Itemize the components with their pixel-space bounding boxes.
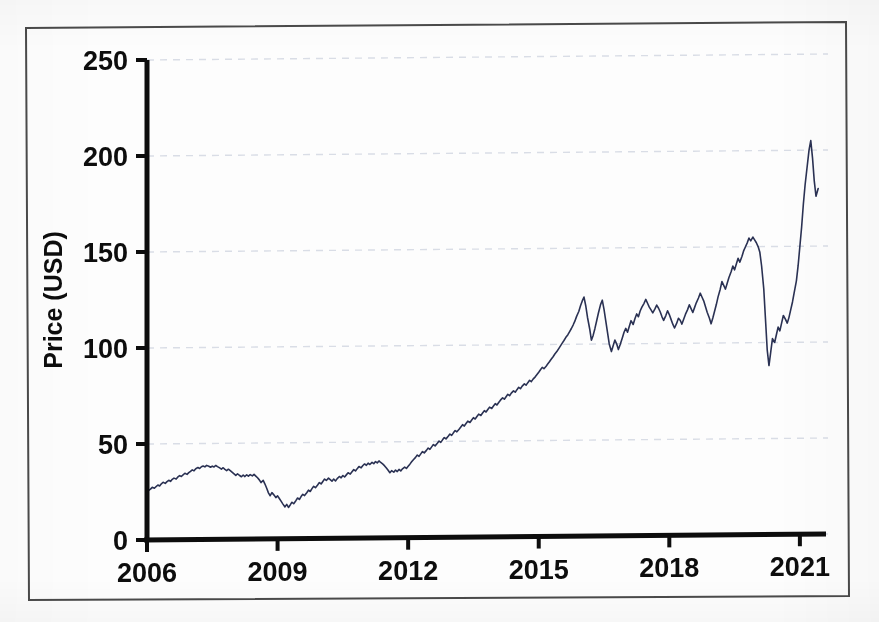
y-tick-label-50: 50 [98,430,128,460]
y-tick-label-100: 100 [83,334,128,364]
price-line-chart: 050100150200250 200620092012201520182021… [0,0,879,622]
x-tick-label-2012: 2012 [378,556,438,586]
figure-background [0,0,879,622]
x-tick-label-2018: 2018 [639,553,699,583]
y-axis-title: Price (USD) [39,231,67,369]
y-tick-label-250: 250 [83,46,128,76]
y-tick-label-0: 0 [113,526,128,556]
y-tick-label-150: 150 [83,238,128,268]
chart-figure: 050100150200250 200620092012201520182021… [0,0,879,622]
x-tick-label-2021: 2021 [770,552,830,582]
x-tick-label-2006: 2006 [117,558,177,588]
y-tick-label-200: 200 [83,142,128,172]
x-tick-label-2015: 2015 [509,555,569,585]
x-tick-label-2009: 2009 [248,557,308,587]
